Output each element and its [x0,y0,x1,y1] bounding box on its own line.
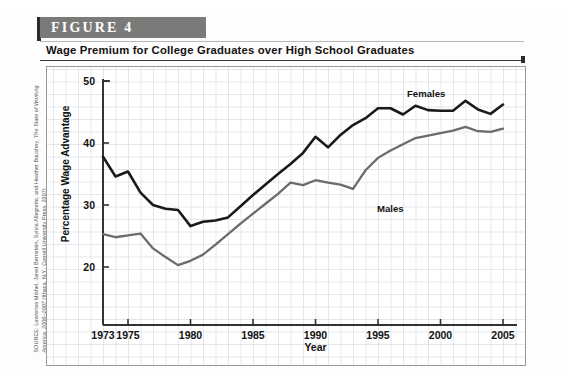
x-axis-tick-label: 2000 [429,329,453,341]
source-note-prefix: SOURCE: Lawrence Mishel, Jared Bernstein… [33,138,39,353]
x-axis-tick-label: 1975 [116,329,140,341]
x-axis-tick-label: 1995 [366,329,390,341]
x-axis-tick-label: 1973 [91,329,115,341]
y-axis-group: 50403020 [83,75,110,325]
y-axis-tick-label: 30 [83,199,95,211]
x-axis-title: Year [304,341,326,353]
y-axis-tick-label: 20 [83,261,95,273]
figure-caption: Wage Premium for College Graduates over … [46,44,414,56]
series-group [103,101,503,265]
series-label-females: Females [407,88,445,99]
figure-banner: FIGURE 4 [40,17,206,38]
x-axis-tick-label: 1990 [304,329,328,341]
x-axis-tick-label: 1985 [241,329,265,341]
x-axis-group: 19731975198019851990199520002005 [91,319,517,341]
series-labels-group: FemalesMales [377,88,445,214]
line-chart-plot: 50403020 1973197519801985199019952000200… [47,67,525,365]
series-line-females [103,101,503,226]
page-canvas: FIGURE 4 Wage Premium for College Gradua… [0,0,562,392]
y-axis-tick-label: 40 [83,137,95,149]
y-axis-tick-label: 50 [83,75,95,87]
chart-frame: 50403020 1973197519801985199019952000200… [46,66,526,366]
x-axis-tick-label: 1980 [179,329,203,341]
y-axis-title: Percentage Wage Advantage [60,105,71,242]
caption-rule-bottom [40,60,524,61]
caption-rule-top [40,41,524,42]
figure-banner-label: FIGURE 4 [40,17,134,38]
caption-rule-end-cap [521,56,525,63]
paper-edge-bottom [0,370,562,392]
series-label-males: Males [377,203,404,214]
axis-titles-group: YearPercentage Wage Advantage [60,105,327,353]
x-axis-tick-label: 2005 [491,329,515,341]
paper-edge-top [0,0,562,8]
series-line-males [103,127,503,265]
